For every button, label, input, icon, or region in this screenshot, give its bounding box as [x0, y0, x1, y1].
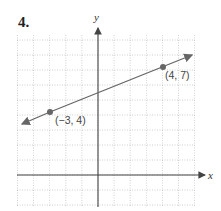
grid: [17, 35, 195, 207]
graph-line: [50, 55, 192, 112]
x-axis-label: x: [207, 169, 213, 181]
graph-line: [22, 112, 50, 124]
point-a-label: (−3, 4): [55, 114, 86, 126]
coordinate-graph: x y (−3, 4) (4, 7): [0, 0, 221, 211]
point-a: [47, 109, 53, 115]
point-b-label: (4, 7): [165, 69, 190, 81]
y-axis-label: y: [93, 11, 99, 23]
